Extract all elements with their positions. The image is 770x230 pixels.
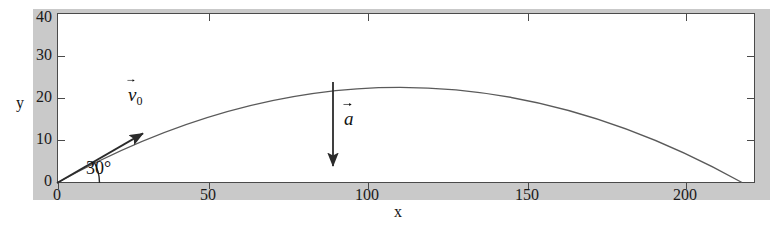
initial-velocity-label: v 0 xyxy=(128,84,142,109)
plot-frame xyxy=(57,13,755,183)
a-symbol: a xyxy=(344,108,354,130)
y-tick-right-30 xyxy=(747,56,754,57)
x-tick-top-100 xyxy=(368,14,369,21)
x-ticklabel-0: 0 xyxy=(53,186,61,204)
y-tick-20 xyxy=(58,98,65,99)
y-tick-30 xyxy=(58,56,65,57)
y-tick-10 xyxy=(58,140,65,141)
y-tick-right-20 xyxy=(747,98,754,99)
v0-letter: v xyxy=(128,84,136,105)
x-ticklabel-100: 100 xyxy=(355,186,379,204)
vector-overbar-icon xyxy=(343,100,353,108)
vector-overbar-icon xyxy=(127,76,135,84)
x-tick-top-150 xyxy=(528,14,529,21)
y-ticklabel-20: 20 xyxy=(30,88,52,106)
x-ticklabel-200: 200 xyxy=(673,186,697,204)
y-axis-title: y xyxy=(16,94,24,112)
v0-symbol: v xyxy=(128,84,136,106)
y-ticklabel-30: 30 xyxy=(30,46,52,64)
projectile-motion-figure: 40 30 20 10 0 0 50 100 150 200 y x xyxy=(0,0,770,230)
y-tick-0 xyxy=(58,182,65,183)
y-ticklabel-40: 40 xyxy=(30,8,52,26)
v0-subscript: 0 xyxy=(136,94,142,108)
y-ticklabel-10: 10 xyxy=(30,130,52,148)
acceleration-label: a xyxy=(344,108,354,130)
x-tick-top-200 xyxy=(686,14,687,21)
x-tick-top-50 xyxy=(209,14,210,21)
x-axis-title: x xyxy=(394,203,402,221)
a-letter: a xyxy=(344,108,354,129)
y-ticklabel-0: 0 xyxy=(30,172,52,190)
x-ticklabel-150: 150 xyxy=(515,186,539,204)
launch-angle-label: 30° xyxy=(86,158,111,179)
x-ticklabel-50: 50 xyxy=(200,186,216,204)
y-tick-right-10 xyxy=(747,140,754,141)
